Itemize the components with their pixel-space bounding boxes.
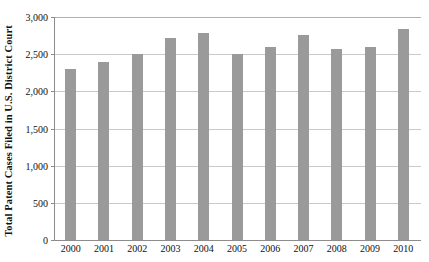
bar <box>232 54 243 240</box>
bar <box>198 33 209 240</box>
bar <box>165 38 176 240</box>
y-axis-tick-label: 3,000 <box>2 12 48 23</box>
y-axis-tick-label: 2,500 <box>2 49 48 60</box>
bar <box>331 49 342 240</box>
bar <box>265 47 276 240</box>
x-axis-tick-label: 2010 <box>383 243 423 254</box>
plot-area: 2000200120022003200420052006200720082009… <box>54 17 421 241</box>
bar <box>98 62 109 240</box>
bar <box>65 69 76 240</box>
y-axis-tick-label: 0 <box>2 235 48 246</box>
y-axis-tick-label: 1,000 <box>2 160 48 171</box>
bar <box>398 29 409 240</box>
y-axis-tick-mark <box>51 240 55 241</box>
y-axis-tick-label: 500 <box>2 197 48 208</box>
y-axis-tick-label: 2,000 <box>2 86 48 97</box>
bar-chart: Total Patent Cases Filed in U.S. Distric… <box>0 0 429 262</box>
bar <box>298 35 309 240</box>
y-axis-tick-label: 1,500 <box>2 123 48 134</box>
bar <box>132 54 143 240</box>
bars-layer <box>55 17 421 240</box>
bar <box>365 47 376 240</box>
